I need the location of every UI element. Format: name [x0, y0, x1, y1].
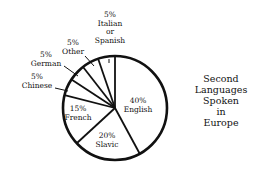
- title-line: in: [188, 106, 254, 117]
- title-line: Second: [188, 73, 254, 84]
- slice-label-german: 5%German: [31, 50, 62, 68]
- slice-label-italian-or-spanish: 5%ItalianorSpanish: [95, 10, 125, 45]
- slice-label-slavic: 20%Slavic: [96, 131, 119, 149]
- chart-title: Second Languages Spoken in Europe: [188, 73, 254, 128]
- title-line: Spoken: [188, 95, 254, 106]
- slice-label-other: 5%Other: [62, 38, 84, 56]
- title-line: Europe: [188, 117, 254, 128]
- title-line: Languages: [188, 84, 254, 95]
- leader-line: [64, 66, 78, 76]
- slice-label-chinese: 5%Chinese: [22, 72, 53, 90]
